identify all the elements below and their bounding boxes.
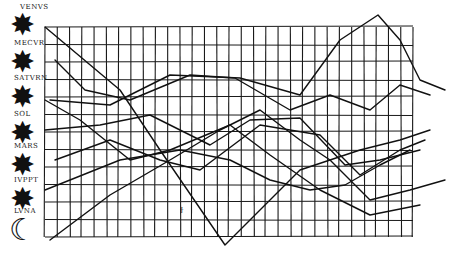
grid-column-line [339, 27, 340, 237]
star-icon: ✸ [5, 82, 39, 112]
moon-icon: ☾ [5, 215, 39, 245]
planet-label: SOL [14, 110, 31, 118]
planet-label: IVPPT [14, 176, 38, 184]
curve-mercury [50, 15, 445, 105]
grid-row-line [45, 220, 413, 221]
planet-curves [45, 15, 445, 245]
star-icon: ✸ [5, 10, 39, 40]
grid-column-line [401, 27, 402, 237]
grid-column-line [375, 27, 376, 237]
grid-row-line [45, 80, 413, 81]
grid-row-line [45, 131, 413, 132]
planet-label: VENVS [20, 3, 49, 11]
grid-row-line [45, 45, 413, 46]
planet-label: LVNA [14, 207, 36, 215]
grid-column-line [412, 27, 413, 237]
grid [44, 26, 413, 237]
curve-saturn [55, 60, 430, 110]
annotation-mark: ϯ [180, 205, 184, 215]
grid-column-line [364, 27, 365, 237]
curve-venus [45, 27, 430, 245]
planetary-chart [0, 0, 454, 261]
grid-row-line [45, 96, 413, 97]
star-icon: ✸ [5, 47, 39, 77]
grid-row-line [45, 61, 413, 62]
planet-label: SATVRN [14, 74, 48, 82]
grid-row-line [45, 115, 413, 116]
planet-label: MARS [14, 142, 38, 150]
planet-label: MECVR [14, 39, 44, 47]
grid-row-line [45, 236, 413, 237]
grid-column-line [254, 27, 255, 237]
grid-row-line [45, 166, 413, 167]
grid-row-line [45, 185, 413, 186]
grid-column-line [44, 27, 45, 237]
grid-row-line [45, 26, 413, 27]
